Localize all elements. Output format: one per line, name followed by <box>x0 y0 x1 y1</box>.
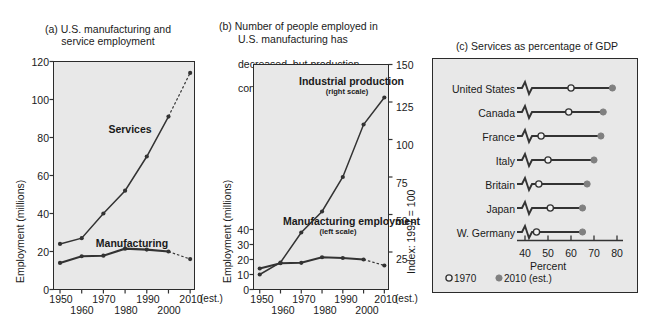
panel-b-data-svg <box>215 0 420 320</box>
panel-b-datapoint-industrial-production <box>341 175 345 179</box>
panel-a-data-svg <box>0 0 215 320</box>
panel-a-datapoint <box>166 115 170 119</box>
panel-c-marker-1970 <box>538 133 544 139</box>
panel-a-series-line-0 <box>60 117 168 244</box>
panel-c-marker-2010 <box>600 109 606 115</box>
panel-c-marker-1970 <box>533 229 539 235</box>
panel-c-marker-1970 <box>566 109 572 115</box>
panel-b-datapoint-manufacturing-employment <box>320 255 324 259</box>
panel-c-row-line <box>517 106 603 118</box>
panel-c-marker-1970 <box>545 157 551 163</box>
panel-a-series-line-1 <box>60 249 168 263</box>
panel-b-datapoint-manufacturing-employment <box>258 266 262 270</box>
panel-a-datapoint <box>101 254 105 258</box>
panel-c-marker-1970 <box>547 205 553 211</box>
panel-a-datapoint <box>145 248 149 252</box>
panel-c-marker-2010 <box>609 85 615 91</box>
panel-c-marker-2010 <box>579 229 585 235</box>
panel-c-row-line <box>517 130 601 142</box>
panel-c-marker-2010 <box>579 205 585 211</box>
panel-c-row-line <box>517 178 587 190</box>
panel-b-series-line-manufacturing-employment <box>260 257 364 268</box>
panel-a-datapoint <box>166 249 170 253</box>
panel-b-datapoint-manufacturing-employment <box>341 256 345 260</box>
panel-b-datapoint-manufacturing-employment <box>278 261 282 265</box>
panel-b-manufacturing-vs-production: (b) Number of people employed in U.S. ma… <box>215 0 420 320</box>
panel-a-datapoint <box>145 154 149 158</box>
panel-a-datapoint <box>58 261 62 265</box>
panel-c-data-svg <box>420 0 652 320</box>
panel-c-legend-marker-2010 <box>496 275 502 281</box>
panel-c-legend-marker-1970 <box>446 275 452 281</box>
panel-b-datapoint-manufacturing-employment <box>299 261 303 265</box>
panel-a-datapoint <box>188 71 192 75</box>
panel-a-series-dashed-1 <box>168 252 190 260</box>
panel-c-services-percentage-gdp: (c) Services as percentage of GDP United… <box>420 0 652 320</box>
panel-c-marker-2010 <box>584 181 590 187</box>
panel-a-datapoint <box>123 189 127 193</box>
panel-c-marker-1970 <box>568 85 574 91</box>
panel-c-marker-2010 <box>591 157 597 163</box>
panel-a-datapoint <box>123 247 127 251</box>
panel-b-series-dashed-manufacturing-employment <box>364 260 385 266</box>
panel-a-manufacturing-service-employment: (a) U.S. manufacturing and service emplo… <box>0 0 215 320</box>
panel-a-datapoint <box>80 254 84 258</box>
panel-c-marker-1970 <box>536 181 542 187</box>
panel-b-datapoint-manufacturing-employment <box>382 263 386 267</box>
panel-a-datapoint <box>58 242 62 246</box>
panel-b-datapoint-industrial-production <box>320 209 324 213</box>
panel-b-series-line-industrial-production <box>260 98 385 275</box>
panel-a-datapoint <box>188 257 192 261</box>
panel-b-datapoint-industrial-production <box>258 272 262 276</box>
panel-b-datapoint-manufacturing-employment <box>361 257 365 261</box>
panel-a-datapoint <box>80 236 84 240</box>
panel-a-series-dashed-0 <box>168 73 190 117</box>
panel-c-row-line <box>517 154 594 166</box>
panel-b-datapoint-industrial-production <box>382 95 386 99</box>
panel-b-datapoint-industrial-production <box>299 230 303 234</box>
panel-c-marker-2010 <box>598 133 604 139</box>
panel-c-row-line <box>517 82 612 94</box>
panel-b-datapoint-industrial-production <box>361 122 365 126</box>
panel-c-row-line <box>517 226 583 238</box>
panel-a-datapoint <box>101 211 105 215</box>
